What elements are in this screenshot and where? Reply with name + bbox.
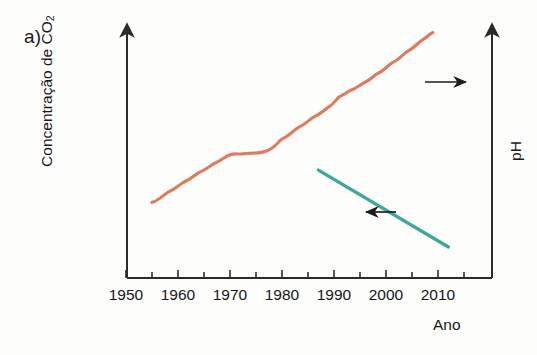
plot-area — [0, 0, 537, 355]
ph-line — [318, 170, 448, 247]
co2-concentration-line — [152, 32, 433, 202]
x-axis-minor-ticks — [126, 270, 464, 278]
figure-panel-a: a) Concentração de CO2 pH Ano 1950 1960 … — [0, 0, 537, 355]
